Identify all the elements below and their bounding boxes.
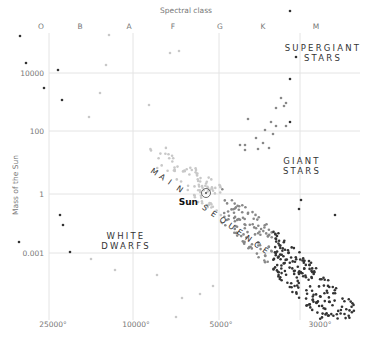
white-dwarf-label-1: WHITE xyxy=(107,231,146,241)
spectral-F: F xyxy=(171,22,175,31)
spectral-K: K xyxy=(261,22,267,31)
y-tick-0001: 0.001 xyxy=(23,249,45,258)
svg-text:E: E xyxy=(209,209,218,219)
y-tick-1: 1 xyxy=(39,190,44,199)
svg-text:A: A xyxy=(157,172,167,183)
supergiant-label-1: SUPERGIANT xyxy=(285,43,361,53)
y-tick-labels: 10000 100 1 0.001 xyxy=(20,69,44,258)
x-tick-labels: 25000° 10000° 5000° 3000° xyxy=(39,320,331,329)
sun-dot-icon xyxy=(205,192,207,194)
spectral-M: M xyxy=(313,22,319,31)
giant-label-2: STARS xyxy=(283,166,321,176)
spectral-O: O xyxy=(38,22,44,31)
y-tick-100: 100 xyxy=(30,127,45,136)
sun-label: Sun xyxy=(179,197,198,207)
y-axis-label: Mass of the Sun xyxy=(11,155,20,215)
svg-text:N: N xyxy=(175,184,185,195)
supergiant-label-2: STARS xyxy=(304,53,342,63)
hr-diagram: Spectral class O B A F G K M 10000 100 1… xyxy=(0,0,373,338)
giant-label-1: GIANT xyxy=(283,156,320,166)
x-tick-3000: 3000° xyxy=(309,320,332,329)
x-tick-25000: 25000° xyxy=(39,320,67,329)
y-tick-10000: 10000 xyxy=(20,69,44,78)
spectral-B: B xyxy=(77,22,82,31)
svg-text:I: I xyxy=(166,178,173,187)
spectral-G: G xyxy=(217,22,223,31)
x-axis-top-title: Spectral class xyxy=(160,6,212,15)
svg-text:M: M xyxy=(149,166,160,177)
spectral-class-labels: O B A F G K M xyxy=(38,22,319,31)
x-tick-5000: 5000° xyxy=(210,320,233,329)
spectral-A: A xyxy=(126,22,132,31)
white-dwarf-label-2: DWARFS xyxy=(101,241,151,251)
x-tick-10000: 10000° xyxy=(122,320,150,329)
grid-lines xyxy=(49,33,360,320)
svg-text:E: E xyxy=(261,246,270,256)
